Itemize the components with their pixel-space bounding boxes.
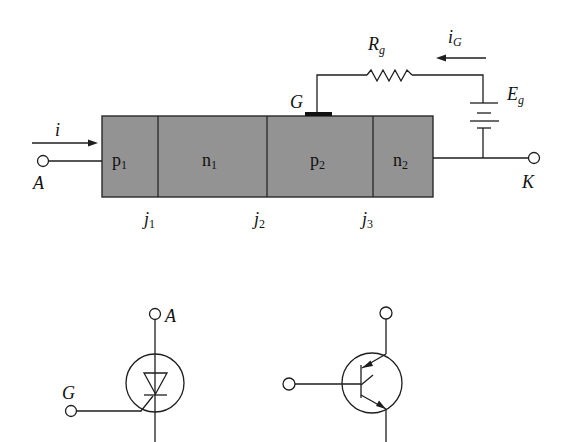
anode-label: A xyxy=(32,173,45,193)
transistor-base-terminal xyxy=(283,378,295,390)
junction-j2-label: j2 xyxy=(252,209,265,231)
gate-contact xyxy=(305,112,332,116)
thyristor-diagram: p1 n1 p2 n2 j1 j2 j3 A i K G Rg xyxy=(0,0,561,442)
resistor-to-source-wire xyxy=(412,75,483,103)
junction-j3-label: j3 xyxy=(360,209,373,231)
gate-current-label: iG xyxy=(448,27,462,49)
current-label: i xyxy=(55,120,60,140)
resistor-icon xyxy=(367,70,412,81)
gate-wire xyxy=(317,75,367,112)
current-arrow-icon xyxy=(32,140,98,147)
gate-label: G xyxy=(290,92,303,112)
gate-current-arrow-icon xyxy=(436,55,486,62)
thyristor-symbol: A G xyxy=(62,306,184,442)
cathode-label: K xyxy=(521,172,535,192)
transistor-top-terminal xyxy=(380,307,392,319)
cathode-terminal xyxy=(529,153,540,164)
battery-icon xyxy=(470,103,499,158)
symbol-anode-terminal xyxy=(150,309,161,320)
transistor-short-lead xyxy=(361,375,373,385)
transistor-symbol xyxy=(283,307,402,442)
thyristor-structure: p1 n1 p2 n2 j1 j2 j3 A i K G Rg xyxy=(32,27,540,231)
resistor-label: Rg xyxy=(367,34,385,57)
anode-terminal xyxy=(38,156,49,167)
junction-j1-label: j1 xyxy=(142,209,155,231)
symbol-anode-label: A xyxy=(164,306,177,326)
symbol-gate-label: G xyxy=(62,383,75,403)
symbol-gate-terminal xyxy=(66,406,77,417)
arrow-head-icon xyxy=(376,401,386,410)
source-label: Eg xyxy=(506,84,524,107)
arrow-head-icon xyxy=(362,361,373,369)
